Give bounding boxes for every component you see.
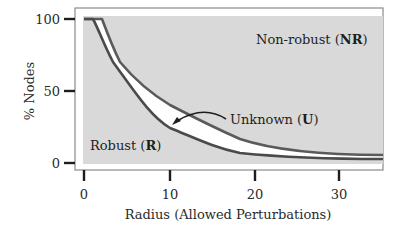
x-tick-label: 10 xyxy=(162,187,179,202)
nr-label-bold: NR xyxy=(340,32,363,47)
x-tick-label: 20 xyxy=(247,187,264,202)
u-label-text: Unknown ( xyxy=(230,112,302,127)
y-axis: 100 50 0 % Nodes xyxy=(22,12,75,171)
robust-region-label: Robust (R) xyxy=(90,138,161,153)
u-label-close: ) xyxy=(313,112,318,127)
y-axis-label: % Nodes xyxy=(22,62,37,120)
nr-region-label: Non-robust (NR) xyxy=(256,32,368,47)
u-label-bold: U xyxy=(302,112,314,127)
nr-label-close: ) xyxy=(363,32,368,47)
y-tick-label: 50 xyxy=(43,84,60,99)
y-tick-label: 0 xyxy=(52,156,60,171)
x-tick-label: 30 xyxy=(331,187,348,202)
r-label-text: Robust ( xyxy=(90,138,145,153)
x-axis-label: Radius (Allowed Perturbations) xyxy=(125,207,332,222)
nr-label-text: Non-robust ( xyxy=(256,32,340,47)
y-tick-label: 100 xyxy=(35,12,60,27)
r-label-bold: R xyxy=(145,138,156,153)
x-axis: 0 10 20 30 Radius (Allowed Perturbations… xyxy=(80,170,347,222)
unknown-region-label: Unknown (U) xyxy=(230,112,319,127)
r-label-close: ) xyxy=(156,138,161,153)
chart-figure: 100 50 0 % Nodes 0 10 20 30 Radius (Allo… xyxy=(0,0,404,243)
x-tick-label: 0 xyxy=(80,187,88,202)
